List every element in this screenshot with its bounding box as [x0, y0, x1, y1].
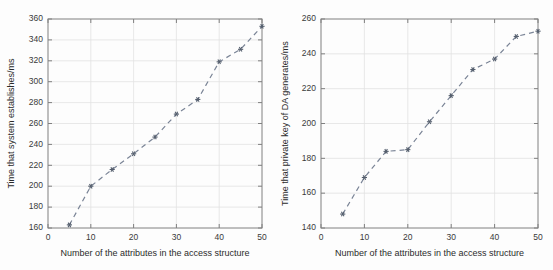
- y-tick-label: 180: [29, 201, 43, 211]
- x-tick-label: 0: [46, 232, 51, 242]
- y-tick-label: 300: [29, 76, 43, 86]
- y-tick-label: 240: [29, 139, 43, 149]
- y-axis-title: Time that system establishes/ms: [6, 58, 16, 189]
- line-chart-system-establishes: 1601802002202402602803003203403600102030…: [0, 0, 276, 270]
- y-tick-label: 280: [29, 97, 43, 107]
- data-point-marker: [195, 97, 200, 102]
- figure-container: 1601802002202402602803003203403600102030…: [0, 0, 553, 270]
- y-tick-label: 260: [302, 13, 316, 23]
- data-point-marker: [340, 212, 345, 217]
- x-tick-label: 20: [129, 232, 139, 242]
- y-axis-title: Time that private key of DA generates/ms: [280, 41, 290, 206]
- x-tick-label: 0: [319, 232, 324, 242]
- x-tick-label: 20: [403, 232, 413, 242]
- y-tick-label: 160: [29, 222, 43, 232]
- x-tick-label: 30: [172, 232, 182, 242]
- y-tick-label: 160: [302, 187, 316, 197]
- x-tick-label: 50: [257, 232, 267, 242]
- data-point-marker: [67, 223, 72, 228]
- y-tick-label: 180: [302, 153, 316, 163]
- data-series-line: [69, 26, 262, 225]
- y-tick-label: 140: [302, 222, 316, 232]
- y-tick-label: 200: [302, 118, 316, 128]
- x-tick-label: 10: [360, 232, 370, 242]
- x-tick-label: 30: [446, 232, 456, 242]
- x-tick-label: 40: [214, 232, 224, 242]
- x-tick-label: 10: [86, 232, 96, 242]
- line-chart-private-key-generation: 14016018020022024026001020304050Number o…: [276, 0, 553, 270]
- y-tick-label: 220: [29, 160, 43, 170]
- data-series-line: [343, 31, 538, 214]
- y-tick-label: 320: [29, 55, 43, 65]
- x-axis-title: Number of the attributes in the access s…: [335, 248, 524, 258]
- y-tick-label: 240: [302, 48, 316, 58]
- y-tick-label: 260: [29, 118, 43, 128]
- y-tick-label: 360: [29, 13, 43, 23]
- x-tick-label: 40: [490, 232, 500, 242]
- chart-panel-right: 14016018020022024026001020304050Number o…: [276, 0, 552, 270]
- y-tick-label: 220: [302, 83, 316, 93]
- y-tick-label: 200: [29, 180, 43, 190]
- x-tick-label: 50: [533, 232, 543, 242]
- chart-panel-left: 1601802002202402602803003203403600102030…: [0, 0, 276, 270]
- y-tick-label: 340: [29, 34, 43, 44]
- x-axis-title: Number of the attributes in the access s…: [60, 248, 249, 258]
